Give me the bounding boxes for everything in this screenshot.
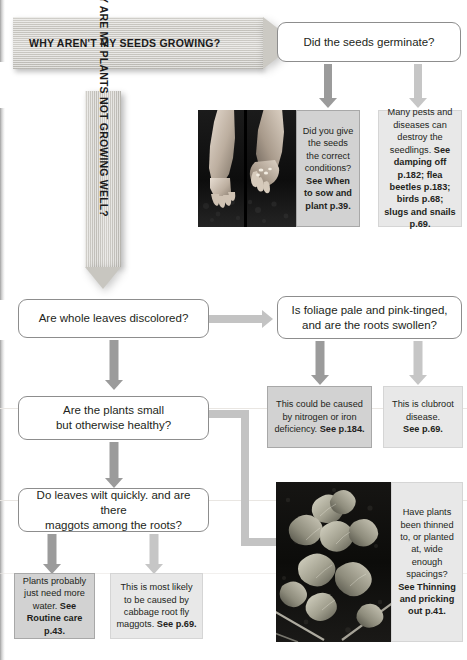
- answer-clubroot: This is clubroot disease. See p.69.: [383, 386, 463, 448]
- banner-seeds-growing: WHY AREN'T MY SEEDS GROWING?: [13, 17, 263, 69]
- answer-clubroot-ref: See p.69.: [403, 424, 443, 434]
- question-foliage-pale-pink[interactable]: Is foliage pale and pink-tinged, and are…: [277, 296, 462, 339]
- answer-clubroot-body: This is clubroot disease.: [392, 399, 454, 421]
- page-edge-gap: [0, 62, 5, 108]
- question-did-seeds-germinate[interactable]: Did the seeds germinate?: [277, 22, 461, 62]
- question-plants-small-healthy[interactable]: Are the plants small but otherwise healt…: [18, 396, 209, 440]
- banner-seeds-growing-text: WHY AREN'T MY SEEDS GROWING?: [29, 17, 220, 69]
- answer-needs-water-body: Plants probably just need more water.: [23, 576, 86, 611]
- answer-thinning-spacing: Have plants been thinned to, or planted …: [391, 482, 463, 642]
- arrow-wilt-to-cabbage: [145, 534, 163, 574]
- question-leaves-discolored-text: Are whole leaves discolored?: [39, 311, 189, 326]
- answer-thinning-spacing-body: Have plants been thinned to, or planted …: [400, 507, 454, 579]
- answer-pests-diseases-ref: See damping off p.182; flea beetles p.18…: [384, 145, 455, 229]
- arrow-germinate-to-conditions: [319, 64, 337, 108]
- answer-thinning-spacing-ref: See Thinning and pricking out p.41.: [398, 582, 456, 617]
- question-foliage-pale-pink-line2: and are the roots swollen?: [302, 319, 437, 331]
- answer-pests-diseases: Many pests and diseases can destroy the …: [378, 110, 462, 227]
- arrow-small-to-wilt: [105, 442, 123, 488]
- answer-nitrogen-deficiency-ref: See p.184.: [320, 424, 365, 434]
- arrow-foliage-to-clubroot: [409, 341, 427, 385]
- arrow-discolored-to-foliage: [209, 310, 273, 328]
- photo-hands-sowing-seeds: [198, 110, 296, 227]
- arrow-foliage-to-nitrogen: [311, 341, 329, 385]
- answer-needs-water: Plants probably just need more water. Se…: [14, 573, 95, 639]
- arrow-discolored-to-small: [105, 340, 123, 390]
- banner-tip-v-icon: [85, 267, 121, 289]
- arrow-wilt-to-water: [43, 534, 61, 574]
- question-plants-small-healthy-line2: but otherwise healthy?: [56, 419, 171, 431]
- page-edge-gap-lower: [0, 300, 5, 340]
- banner-plants-growing-well-text: WHY ARE MY PLANTS NOT GROWING WELL?: [97, 0, 110, 217]
- answer-cabbage-root-fly: This is most likely to be caused by cabb…: [110, 573, 203, 639]
- question-leaves-discolored[interactable]: Are whole leaves discolored?: [18, 299, 209, 338]
- photo-seedlings-in-bed: [276, 482, 391, 642]
- answer-correct-conditions: Did you give the seeds the correct condi…: [296, 110, 360, 227]
- arrow-germinate-to-pests: [409, 64, 427, 108]
- question-foliage-pale-pink-line1: Is foliage pale and pink-tinged,: [292, 304, 448, 316]
- flowchart-page: WHY AREN'T MY SEEDS GROWING? WHY ARE MY …: [0, 0, 467, 660]
- answer-cabbage-root-fly-ref: See p.69.: [157, 619, 197, 629]
- question-leaves-wilt-maggots-line1: Do leaves wilt quickly. and are there: [37, 489, 191, 516]
- answer-correct-conditions-ref: See When to sow and plant p.39.: [304, 176, 352, 211]
- answer-correct-conditions-body: Did you give the seeds the correct condi…: [303, 126, 354, 173]
- question-leaves-wilt-maggots-line2: maggots among the roots?: [45, 519, 182, 531]
- question-leaves-wilt-maggots[interactable]: Do leaves wilt quickly. and are there ma…: [18, 488, 209, 532]
- question-did-seeds-germinate-text: Did the seeds germinate?: [303, 35, 434, 50]
- question-plants-small-healthy-line1: Are the plants small: [63, 404, 164, 416]
- banner-plants-growing-well: WHY ARE MY PLANTS NOT GROWING WELL?: [85, 91, 121, 267]
